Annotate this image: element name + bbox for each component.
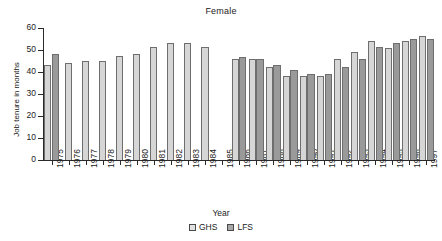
bar-lfs: [290, 70, 297, 160]
x-tick: [239, 161, 240, 165]
bar-ghs: [232, 59, 239, 160]
bar-ghs: [283, 76, 290, 160]
bar-ghs: [334, 59, 341, 160]
legend-label: LFS: [237, 222, 253, 232]
bar-ghs: [317, 76, 324, 160]
x-tick: [120, 161, 121, 165]
x-tick: [256, 161, 257, 165]
x-tick: [273, 161, 274, 165]
bar-lfs: [393, 43, 400, 160]
bar-ghs: [351, 52, 358, 160]
bar-ghs: [167, 43, 174, 160]
bar-lfs: [376, 47, 383, 160]
bar-lfs: [307, 74, 314, 160]
x-tick: [358, 161, 359, 165]
x-axis-label: Year: [0, 208, 442, 218]
x-tick: [409, 161, 410, 165]
x-tick: [137, 161, 138, 165]
bar-ghs: [419, 36, 426, 160]
bar-lfs: [325, 74, 332, 160]
x-tick: [69, 161, 70, 165]
bars-layer: [43, 28, 435, 160]
y-tick-label: 50: [0, 45, 36, 54]
legend-swatch-icon: [189, 224, 196, 231]
bar-lfs: [239, 57, 246, 160]
bar-ghs: [201, 47, 208, 160]
x-tick: [307, 161, 308, 165]
x-tick: [188, 161, 189, 165]
x-tick: [392, 161, 393, 165]
bar-lfs: [359, 59, 366, 160]
bar-lfs: [427, 39, 434, 160]
x-tick: [154, 161, 155, 165]
legend-swatch-icon: [227, 224, 234, 231]
bar-lfs: [342, 67, 349, 160]
x-tick: [290, 161, 291, 165]
bar-ghs: [99, 61, 106, 160]
legend-item-lfs[interactable]: LFS: [227, 222, 253, 232]
x-tick: [171, 161, 172, 165]
x-tick: [52, 161, 53, 165]
y-tick-label: 40: [0, 67, 36, 76]
chart-figure: Female Job tenure in months 010203040506…: [0, 0, 442, 241]
bar-lfs: [273, 65, 280, 160]
bar-lfs: [410, 39, 417, 160]
bar-ghs: [133, 54, 140, 160]
bar-ghs: [184, 43, 191, 160]
bar-ghs: [150, 47, 157, 160]
x-tick: [324, 161, 325, 165]
bar-lfs: [52, 54, 59, 160]
bar-ghs: [65, 63, 72, 160]
bar-ghs: [402, 41, 409, 160]
bar-ghs: [385, 48, 392, 160]
y-tick-label: 10: [0, 133, 36, 142]
x-tick: [375, 161, 376, 165]
legend-label: GHS: [199, 222, 217, 232]
bar-ghs: [82, 61, 89, 160]
bar-ghs: [249, 59, 256, 160]
y-tick-label: 20: [0, 111, 36, 120]
chart-title: Female: [0, 6, 442, 16]
x-tick: [205, 161, 206, 165]
legend-item-ghs[interactable]: GHS: [189, 222, 217, 232]
bar-ghs: [44, 65, 51, 160]
x-tick: [222, 161, 223, 165]
y-tick-label: 30: [0, 89, 36, 98]
x-tick: [341, 161, 342, 165]
x-tick: [426, 161, 427, 165]
y-tick: [38, 160, 43, 161]
y-tick-label: 60: [0, 23, 36, 32]
bar-ghs: [300, 76, 307, 160]
y-tick-label: 0: [0, 155, 36, 164]
x-tick: [103, 161, 104, 165]
chart-legend: GHSLFS: [0, 222, 442, 232]
bar-ghs: [266, 67, 273, 160]
bar-ghs: [116, 56, 123, 160]
bar-ghs: [368, 41, 375, 160]
x-tick: [86, 161, 87, 165]
bar-lfs: [256, 59, 263, 160]
